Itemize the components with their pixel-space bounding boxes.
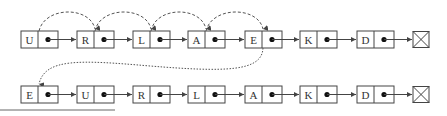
- node-value: K: [305, 34, 313, 46]
- reordered-list-row: EURLAKD: [21, 86, 429, 103]
- node-value: A: [250, 89, 258, 101]
- null-terminator-icon: [413, 32, 429, 48]
- node-value: E: [26, 89, 33, 101]
- node-value: A: [193, 34, 201, 46]
- list-node-e: E: [245, 31, 299, 48]
- original-list-row: URLAEKD: [21, 31, 429, 48]
- search-traversal-arcs: [39, 12, 263, 31]
- list-node-d: D: [357, 86, 412, 103]
- node-value: D: [362, 34, 370, 46]
- null-terminator-icon: [413, 87, 429, 103]
- node-value: L: [193, 89, 200, 101]
- arc-u-to-r: [39, 12, 95, 31]
- node-value: R: [138, 89, 146, 101]
- node-value: K: [305, 89, 313, 101]
- linked-list-diagram: URLAEKD EURLAKD: [0, 0, 447, 116]
- arc-l-to-a: [151, 12, 206, 31]
- list-node-r: R: [77, 31, 132, 48]
- node-value: U: [82, 89, 90, 101]
- node-value: U: [26, 34, 34, 46]
- list-node-r: R: [133, 86, 187, 103]
- node-value: D: [362, 89, 370, 101]
- list-node-l: L: [133, 31, 187, 48]
- list-node-l: L: [188, 86, 244, 103]
- arc-a-to-e: [206, 12, 263, 31]
- node-value: E: [250, 34, 257, 46]
- node-value: R: [82, 34, 90, 46]
- list-node-e: E: [21, 86, 76, 103]
- list-node-d: D: [357, 31, 412, 48]
- arc-r-to-l: [95, 12, 151, 31]
- node-value: L: [138, 34, 145, 46]
- list-node-k: K: [300, 31, 356, 48]
- list-node-k: K: [300, 86, 356, 103]
- list-node-u: U: [21, 31, 76, 48]
- list-node-u: U: [77, 86, 132, 103]
- move-to-front-arrow: [39, 48, 263, 84]
- list-node-a: A: [245, 86, 299, 103]
- list-node-a: A: [188, 31, 244, 48]
